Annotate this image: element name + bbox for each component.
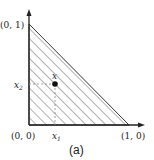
x-vertex-label: (1, 0) [121,131,145,141]
simplex-diagram: x (0, 1) (0, 0) (1, 0) x2 x1 (a) [0,0,154,160]
point-label: x [52,71,57,81]
figure-caption: (a) [69,143,84,157]
point-marker [52,81,58,87]
x1-label: x1 [52,131,61,142]
simplex-region [29,24,129,125]
x-axis-arrow-icon [138,123,145,128]
origin-label: (0, 0) [11,131,35,141]
x2-label: x2 [14,80,23,91]
y-vertex-label: (0, 1) [0,20,24,30]
y-axis-arrow-icon [27,9,32,16]
